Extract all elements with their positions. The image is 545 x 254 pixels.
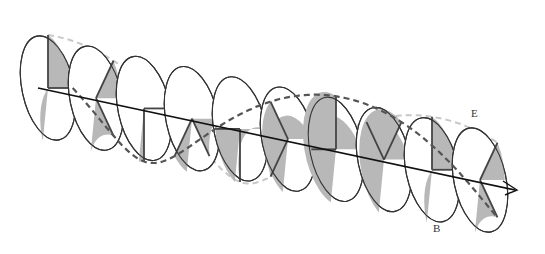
label-e-field: E <box>471 107 478 119</box>
em-wave-diagram: E B <box>0 0 545 254</box>
field-planes <box>12 31 517 237</box>
label-b-field: B <box>433 222 440 234</box>
field-plane <box>444 123 517 237</box>
